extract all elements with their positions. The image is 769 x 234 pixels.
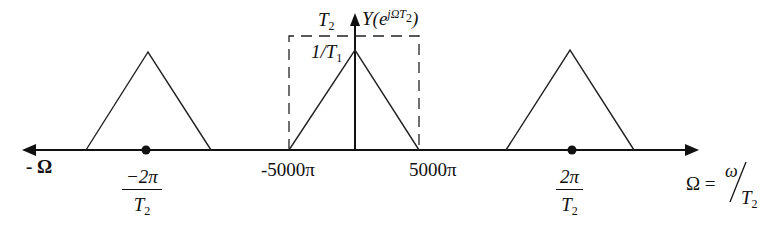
y-axis-label: Y(ejΩT2)	[362, 8, 418, 28]
tick-neg-2pi-over-t2: −2π T2	[122, 167, 162, 217]
tick-pos-2pi-over-t2: 2π T2	[556, 167, 583, 217]
spectrum-diagram: Y(ejΩT2) T2 1/T1 - Ω −2π T2 -5000π 5000π…	[0, 0, 769, 234]
x-axis-label: Ω =	[686, 174, 716, 193]
pos-2pi-dot	[568, 146, 577, 155]
left-omega-label: - Ω	[26, 157, 52, 176]
peak-label: 1/T1	[311, 42, 342, 64]
left-replica-triangle	[86, 52, 211, 150]
neg-2pi-dot	[142, 146, 151, 155]
x-axis-label-denominator: T2	[741, 188, 758, 210]
dashed-height-label: T2	[318, 10, 335, 32]
right-replica-triangle	[506, 50, 634, 150]
x-axis-right-arrow-icon	[685, 144, 699, 156]
tick-neg-5000pi: -5000π	[261, 160, 315, 179]
plot-area	[0, 0, 769, 234]
tick-pos-5000pi: 5000π	[409, 160, 457, 179]
y-axis-arrow-icon	[350, 13, 360, 26]
x-axis-left-arrow-icon	[22, 144, 36, 156]
